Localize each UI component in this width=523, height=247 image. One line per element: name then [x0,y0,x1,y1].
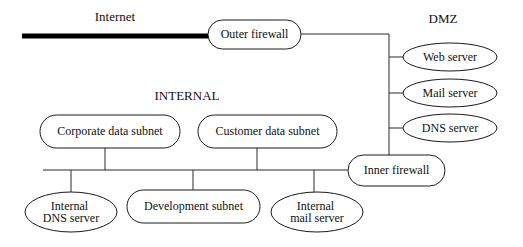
inner-firewall-label: Inner firewall [364,163,430,177]
node-inner-firewall[interactable]: Inner firewall [348,155,445,186]
customer-data-subnet-label: Customer data subnet [216,124,321,138]
nodes-layer: Outer firewall Web server Mail server DN… [25,20,497,232]
node-internal-mail-server[interactable]: Internal mail server [271,192,363,232]
node-development-subnet[interactable]: Development subnet [127,190,260,223]
node-dns-server[interactable]: DNS server [403,114,497,142]
node-mail-server[interactable]: Mail server [403,79,497,107]
node-corporate-data-subnet[interactable]: Corporate data subnet [40,115,180,148]
zone-label-internal: INTERNAL [155,88,220,103]
internal-dns-server-label-line-2: DNS server [43,211,99,225]
node-web-server[interactable]: Web server [403,43,497,71]
development-subnet-label: Development subnet [144,199,244,213]
node-internal-dns-server[interactable]: Internal DNS server [25,192,117,232]
node-customer-data-subnet[interactable]: Customer data subnet [198,115,337,148]
dns-server-label: DNS server [422,121,478,135]
internal-dns-server-label: Internal DNS server [43,198,99,225]
zone-label-internet: Internet [95,9,136,24]
internal-mail-server-label: Internal mail server [290,198,344,225]
internal-mail-server-label-line-1: Internal [297,198,335,212]
corporate-data-subnet-label: Corporate data subnet [57,124,163,138]
diagram-canvas: Outer firewall Web server Mail server DN… [0,0,523,247]
node-outer-firewall[interactable]: Outer firewall [208,20,301,49]
mail-server-label: Mail server [423,86,478,100]
web-server-label: Web server [423,50,477,64]
network-diagram: Outer firewall Web server Mail server DN… [0,0,523,247]
zone-label-dmz: DMZ [429,11,458,26]
internal-dns-server-label-line-1: Internal [51,198,89,212]
internal-mail-server-label-line-2: mail server [290,211,344,225]
outer-firewall-label: Outer firewall [221,27,289,41]
